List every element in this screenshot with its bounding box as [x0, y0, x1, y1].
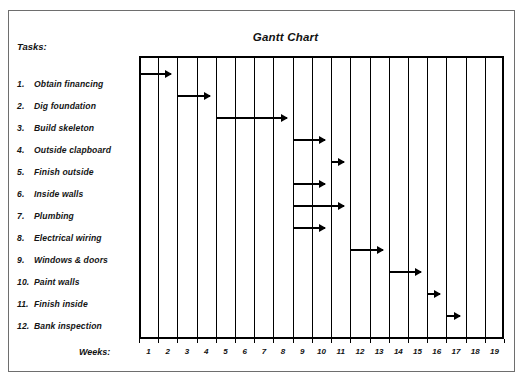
task-name: Bank inspection — [34, 321, 102, 331]
grid-line-week-5 — [235, 56, 236, 339]
gantt-bar — [331, 161, 344, 163]
week-tick — [139, 339, 140, 343]
week-label: 16 — [427, 347, 447, 356]
task-number: 6. — [17, 183, 34, 205]
task-label: 11.Finish inside — [17, 293, 143, 315]
task-name: Dig foundation — [34, 101, 96, 111]
grid-line-week-18 — [485, 56, 486, 339]
week-label: 10 — [312, 347, 332, 356]
task-label: 3.Build skeleton — [17, 117, 143, 139]
week-label: 9 — [292, 347, 312, 356]
week-tick — [504, 339, 505, 343]
task-number: 4. — [17, 139, 34, 161]
grid-line-week-8 — [293, 56, 294, 339]
week-tick — [177, 339, 178, 343]
week-label: 7 — [254, 347, 274, 356]
week-tick — [158, 339, 159, 343]
week-label: 13 — [369, 347, 389, 356]
task-label: 7.Plumbing — [17, 205, 143, 227]
grid-line-week-15 — [427, 56, 428, 339]
task-label: 5.Finish outside — [17, 161, 143, 183]
week-tick — [312, 339, 313, 343]
week-label: 14 — [388, 347, 408, 356]
week-label: 3 — [177, 347, 197, 356]
week-tick — [485, 339, 486, 343]
week-tick — [466, 339, 467, 343]
task-name: Obtain financing — [34, 79, 103, 89]
task-name: Windows & doors — [34, 255, 108, 265]
task-number: 3. — [17, 117, 34, 139]
gantt-bar — [293, 183, 325, 185]
gantt-bar — [216, 117, 287, 119]
week-label: 19 — [484, 347, 504, 356]
task-number: 8. — [17, 227, 34, 249]
week-tick — [216, 339, 217, 343]
task-label: 6.Inside walls — [17, 183, 143, 205]
task-label: 4.Outside clapboard — [17, 139, 143, 161]
week-label: 4 — [196, 347, 216, 356]
task-number: 1. — [17, 73, 34, 95]
week-tick — [197, 339, 198, 343]
task-number: 10. — [17, 271, 34, 293]
gantt-bar — [389, 271, 421, 273]
task-number: 9. — [17, 249, 34, 271]
task-label: 8.Electrical wiring — [17, 227, 143, 249]
week-label: 11 — [331, 347, 351, 356]
grid-line-week-14 — [408, 56, 409, 339]
task-label-list: 1.Obtain financing2.Dig foundation3.Buil… — [17, 73, 143, 337]
grid-line-week-9 — [312, 56, 313, 339]
task-name: Build skeleton — [34, 123, 94, 133]
gantt-bar — [350, 249, 382, 251]
week-tick — [427, 339, 428, 343]
grid-line-week-7 — [273, 56, 274, 339]
task-name: Electrical wiring — [34, 233, 102, 243]
tasks-axis-heading: Tasks: — [17, 41, 47, 52]
grid-line-week-17 — [466, 56, 467, 339]
task-name: Finish inside — [34, 299, 88, 309]
week-tick — [389, 339, 390, 343]
week-label: 12 — [350, 347, 370, 356]
gantt-plot-area: 12345678910111213141516171819 — [139, 56, 504, 349]
task-number: 5. — [17, 161, 34, 183]
grid-line-week-1 — [158, 56, 159, 339]
task-label: 1.Obtain financing — [17, 73, 143, 95]
week-label: 1 — [139, 347, 159, 356]
figure-frame: Gantt Chart Tasks: 1.Obtain financing2.D… — [8, 10, 515, 372]
task-number: 7. — [17, 205, 34, 227]
gantt-bar — [293, 205, 345, 207]
grid-line-week-6 — [254, 56, 255, 339]
week-tick — [370, 339, 371, 343]
weeks-axis-heading: Weeks: — [79, 347, 110, 357]
grid-line-week-2 — [177, 56, 178, 339]
week-label: 18 — [465, 347, 485, 356]
week-label: 8 — [273, 347, 293, 356]
week-label: 6 — [235, 347, 255, 356]
task-number: 11. — [17, 293, 34, 315]
grid-line-week-10 — [331, 56, 332, 339]
chart-title: Gantt Chart — [9, 31, 516, 43]
week-tick — [446, 339, 447, 343]
task-number: 2. — [17, 95, 34, 117]
task-name: Outside clapboard — [34, 145, 111, 155]
week-tick — [331, 339, 332, 343]
gantt-bar — [293, 227, 325, 229]
task-label: 12.Bank inspection — [17, 315, 143, 337]
gantt-bar — [293, 139, 325, 141]
grid-line-week-11 — [350, 56, 351, 339]
grid-line-week-13 — [389, 56, 390, 339]
grid-line-week-12 — [370, 56, 371, 339]
gantt-bar — [427, 293, 440, 295]
week-label: 2 — [158, 347, 178, 356]
task-label: 9.Windows & doors — [17, 249, 143, 271]
week-tick — [235, 339, 236, 343]
gantt-bar — [446, 315, 459, 317]
week-tick — [254, 339, 255, 343]
task-name: Plumbing — [34, 211, 74, 221]
task-name: Finish outside — [34, 167, 94, 177]
week-tick — [408, 339, 409, 343]
week-tick — [350, 339, 351, 343]
week-label: 17 — [446, 347, 466, 356]
task-label: 10.Paint walls — [17, 271, 143, 293]
week-tick — [273, 339, 274, 343]
task-label: 2.Dig foundation — [17, 95, 143, 117]
